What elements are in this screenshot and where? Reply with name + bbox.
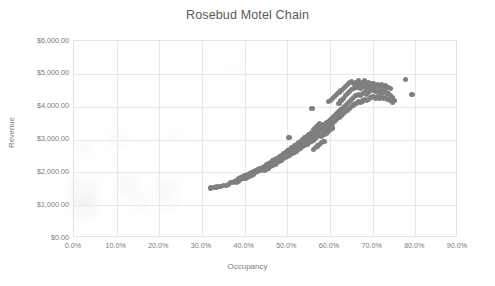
gridline-horizontal: [74, 140, 456, 141]
data-point: [409, 92, 414, 97]
x-axis-tick-label: 0.0%: [49, 241, 97, 250]
x-axis-tick-label: 10.0%: [92, 241, 140, 250]
x-axis-tick-label: 50.0%: [262, 241, 310, 250]
gridline-vertical: [373, 41, 374, 236]
x-axis-tick-label: 30.0%: [177, 241, 225, 250]
data-point: [403, 77, 408, 82]
gridline-vertical: [330, 41, 331, 236]
y-axis-tick-label: $3,000.00: [1, 134, 69, 143]
x-axis-tick-label: 70.0%: [348, 241, 396, 250]
scatter-chart: Rosebud Motel Chain Revenue Occupancy $0…: [0, 0, 495, 286]
data-point: [388, 86, 393, 91]
x-axis-tick-label: 80.0%: [390, 241, 438, 250]
data-point: [286, 135, 291, 140]
plot-area: [73, 40, 457, 237]
data-point: [309, 106, 314, 111]
gridline-vertical: [202, 41, 203, 236]
gridline-vertical: [117, 41, 118, 236]
x-axis-tick-label: 60.0%: [305, 241, 353, 250]
y-axis-tick-label: $6,000.00: [1, 36, 69, 45]
x-axis-tick-labels: 0.0%10.0%20.0%30.0%40.0%50.0%60.0%70.0%8…: [0, 241, 495, 255]
y-axis-tick-label: $4,000.00: [1, 101, 69, 110]
data-point: [321, 139, 326, 144]
data-point: [330, 125, 335, 130]
x-axis-tick-label: 40.0%: [220, 241, 268, 250]
y-axis-tick-label: $2,000.00: [1, 167, 69, 176]
x-axis-tick-label: 90.0%: [433, 241, 481, 250]
gridline-horizontal: [74, 205, 456, 206]
data-point: [392, 98, 397, 103]
gridline-horizontal: [74, 107, 456, 108]
x-axis-tick-label: 20.0%: [134, 241, 182, 250]
y-axis-tick-label: $5,000.00: [1, 68, 69, 77]
y-axis-tick-label: $1,000.00: [1, 200, 69, 209]
gridline-vertical: [415, 41, 416, 236]
gridline-vertical: [159, 41, 160, 236]
gridline-horizontal: [74, 74, 456, 75]
gridline-vertical: [245, 41, 246, 236]
chart-title: Rosebud Motel Chain: [0, 8, 495, 22]
x-axis-title: Occupancy: [0, 262, 495, 271]
